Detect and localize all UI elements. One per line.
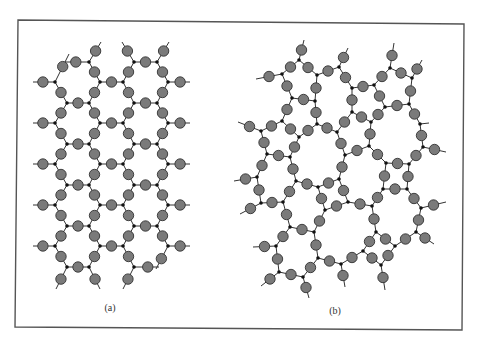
oxygen-atom (123, 190, 133, 200)
panel-crystalline-lattice (33, 42, 190, 289)
network-former-atom (98, 121, 102, 125)
oxygen-atom (403, 171, 413, 181)
network-former-atom (98, 80, 102, 84)
network-former-atom (337, 177, 341, 181)
oxygen-atom (264, 71, 274, 81)
oxygen-atom (311, 107, 321, 117)
network-former-atom (53, 203, 57, 207)
network-former-atom (53, 121, 57, 125)
oxygen-atom (56, 169, 66, 179)
network-former-atom (297, 135, 301, 139)
oxygen-atom (157, 108, 167, 118)
network-former-atom (265, 152, 269, 156)
oxygen-atom (73, 139, 83, 149)
network-former-atom (132, 60, 136, 64)
network-former-atom (155, 101, 159, 105)
oxygen-atom (339, 117, 349, 127)
network-former-atom (294, 179, 298, 183)
network-former-atom (312, 230, 316, 234)
oxygen-atom (259, 241, 269, 251)
oxygen-atom (347, 95, 357, 105)
network-former-atom (65, 224, 69, 228)
oxygen-atom (38, 159, 48, 169)
oxygen-atom (358, 81, 368, 91)
oxygen-atom (89, 190, 99, 200)
oxygen-atom (286, 269, 296, 279)
oxygen-atom (89, 149, 99, 159)
network-former-atom (280, 72, 284, 76)
oxygen-atom (324, 256, 334, 266)
oxygen-atom (314, 216, 324, 226)
oxygen-atom (303, 62, 313, 72)
network-former-atom (280, 119, 284, 123)
network-former-atom (166, 80, 170, 84)
network-former-atom (132, 224, 136, 228)
network-former-atom (369, 120, 373, 124)
network-former-atom (407, 102, 411, 106)
network-former-atom (350, 110, 354, 114)
oxygen-atom (296, 45, 306, 55)
oxygen-atom (338, 185, 348, 195)
oxygen-atom (396, 68, 406, 78)
network-former-atom (121, 162, 125, 166)
oxygen-atom (380, 234, 390, 244)
network-former-atom (281, 200, 285, 204)
oxygen-atom (311, 83, 321, 93)
oxygen-atom (367, 253, 377, 263)
oxygen-atom (374, 91, 384, 101)
oxygen-atom (123, 251, 133, 261)
network-former-atom (315, 122, 319, 126)
oxygen-atom (89, 108, 99, 118)
oxygen-atom (331, 201, 341, 211)
oxygen-atom (175, 241, 185, 251)
oxygen-atom (157, 169, 167, 179)
network-former-atom (87, 60, 91, 64)
network-former-atom (155, 224, 159, 228)
oxygen-atom (56, 149, 66, 159)
oxygen-atom (254, 185, 264, 195)
oxygen-atom (140, 221, 150, 231)
oxygen-atom (273, 150, 283, 160)
network-former-atom (335, 130, 339, 134)
oxygen-atom (285, 62, 295, 72)
oxygen-atom (175, 118, 185, 128)
oxygen-atom (323, 178, 333, 188)
oxygen-atom (123, 210, 133, 220)
oxygen-atom (372, 149, 382, 159)
network-former-atom (288, 155, 292, 159)
oxygen-atom (89, 87, 99, 97)
oxygen-atom (347, 252, 357, 262)
oxygen-atom (245, 203, 255, 213)
network-former-atom (259, 201, 263, 205)
network-former-atom (274, 244, 278, 248)
oxygen-atom (123, 169, 133, 179)
network-former-atom (121, 203, 125, 207)
oxygen-atom (281, 209, 291, 219)
oxygen-atom (392, 158, 402, 168)
oxygen-atom (352, 145, 362, 155)
oxygen-atom (316, 193, 326, 203)
oxygen-atom (157, 128, 167, 138)
oxygen-atom (71, 57, 81, 67)
oxygen-atom (378, 272, 388, 282)
oxygen-atom (157, 67, 167, 77)
oxygen-atom (56, 210, 66, 220)
oxygen-atom (56, 231, 66, 241)
oxygen-atom (38, 118, 48, 128)
oxygen-atom (428, 200, 438, 210)
oxygen-atom (38, 200, 48, 210)
network-former-atom (407, 162, 411, 166)
oxygen-atom (284, 186, 294, 196)
network-former-atom (346, 200, 350, 204)
network-former-atom (98, 244, 102, 248)
oxygen-atom (278, 231, 288, 241)
network-former-atom (65, 265, 69, 269)
oxygen-atom (106, 77, 116, 87)
network-former-atom (288, 225, 292, 229)
network-former-atom (53, 162, 57, 166)
oxygen-atom (336, 138, 346, 148)
oxygen-atom (157, 210, 167, 220)
oxygen-atom (157, 87, 167, 97)
network-former-atom (350, 86, 354, 90)
oxygen-atom (244, 121, 254, 131)
